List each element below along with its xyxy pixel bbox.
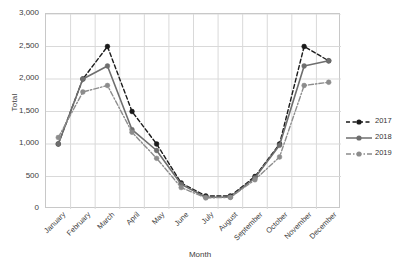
- legend-swatch-2019: [345, 146, 373, 158]
- data-point-2019-September: [253, 177, 258, 182]
- legend-item-2019[interactable]: 2019: [345, 144, 399, 160]
- x-axis-tick-labels: JanuaryFebruaryMarchAprilMayJuneJulyAugu…: [45, 208, 340, 256]
- data-point-2019-May: [154, 156, 159, 161]
- legend-item-2017[interactable]: 2017: [345, 112, 399, 128]
- y-axis-tick-label: 1,000: [19, 139, 39, 147]
- y-axis-tick-label: 500: [26, 172, 39, 180]
- legend-label-2017: 2017: [373, 116, 392, 125]
- data-point-2019-August: [228, 195, 233, 200]
- y-axis-tick-label: 2,000: [19, 74, 39, 82]
- legend-label-2019: 2019: [373, 148, 392, 157]
- data-point-2018-January: [56, 142, 61, 147]
- data-point-2019-November: [302, 83, 307, 88]
- data-point-2017-May: [154, 142, 159, 147]
- data-point-2018-March: [105, 64, 110, 69]
- data-point-2019-October: [277, 155, 282, 160]
- data-point-2018-October: [277, 143, 282, 148]
- y-axis-tick-label: 2,500: [19, 42, 39, 50]
- data-point-2019-March: [105, 83, 110, 88]
- data-point-2019-December: [326, 80, 331, 85]
- data-point-2018-November: [302, 64, 307, 69]
- y-axis-tick-labels: 05001,0001,5002,0002,5003,000: [0, 0, 42, 263]
- legend-item-2018[interactable]: 2018: [345, 128, 399, 144]
- data-point-2017-November: [302, 44, 307, 49]
- data-point-2019-June: [179, 185, 184, 190]
- y-axis-tick-label: 3,000: [19, 9, 39, 17]
- line-chart: Total 05001,0001,5002,0002,5003,000 Janu…: [0, 0, 399, 263]
- data-point-2019-February: [80, 90, 85, 95]
- legend-swatch-2018: [345, 130, 373, 142]
- plot-canvas: [46, 14, 341, 209]
- data-point-2018-February: [80, 77, 85, 82]
- plot-area: [45, 13, 340, 208]
- legend-swatch-2017: [345, 114, 373, 126]
- data-point-2017-April: [130, 109, 135, 114]
- legend-label-2018: 2018: [373, 132, 392, 141]
- data-point-2018-May: [154, 148, 159, 153]
- data-point-2018-December: [326, 58, 331, 63]
- data-point-2017-March: [105, 44, 110, 49]
- x-axis-title: Month: [150, 250, 250, 259]
- chart-legend: 201720182019: [345, 112, 399, 160]
- data-point-2019-July: [203, 196, 208, 201]
- y-axis-tick-label: 0: [35, 204, 39, 212]
- data-point-2019-January: [56, 135, 61, 140]
- data-point-2019-April: [130, 130, 135, 135]
- y-axis-tick-label: 1,500: [19, 107, 39, 115]
